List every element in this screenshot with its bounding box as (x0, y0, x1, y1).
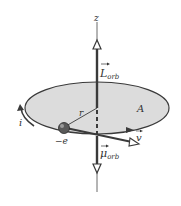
area-label: A (136, 103, 144, 114)
angular-momentum-arrowhead-icon (93, 40, 101, 49)
magnetic-moment-overarrow-head-icon (106, 145, 109, 148)
magnetic-moment-symbol: μ (100, 147, 107, 160)
angular-momentum-overarrow-head-icon (107, 63, 110, 66)
diagram-canvas: z Lorb A r i −e v μorb (0, 0, 181, 206)
radius-label: r (79, 108, 84, 118)
current-arrowhead-icon (17, 104, 24, 111)
electron-highlight (60, 124, 64, 128)
angular-momentum-label: Lorb (99, 67, 120, 81)
z-axis-label: z (93, 13, 99, 23)
current-label: i (19, 117, 22, 128)
magnetic-moment-subscript: orb (107, 153, 120, 161)
charge-label: −e (55, 136, 68, 146)
orbital-moment-diagram: z Lorb A r i −e v μorb (0, 0, 181, 206)
angular-momentum-symbol: L (99, 67, 107, 80)
electron (59, 123, 70, 134)
angular-momentum-subscript: orb (107, 73, 120, 81)
magnetic-moment-arrowhead-icon (93, 164, 101, 173)
velocity-label: v (136, 132, 142, 143)
magnetic-moment-label: μorb (100, 147, 120, 161)
